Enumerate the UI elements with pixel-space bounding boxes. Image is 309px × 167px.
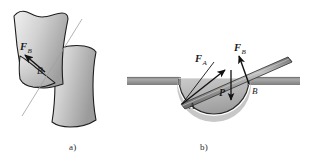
caption-a: a) [69, 142, 76, 152]
panel-a-label-b: B [37, 66, 43, 76]
panel-b: F A F B P A B [127, 42, 300, 122]
panel-a-fb-text: F [19, 41, 27, 52]
panel-b-fa-text: F [194, 53, 202, 64]
panel-b-fb-subscript: B [242, 48, 247, 56]
panel-b-label-fb: F B [233, 42, 247, 56]
panel-b-fa-subscript: A [202, 59, 208, 67]
panel-b-label-fa: F A [194, 53, 208, 67]
panel-b-ground-left [127, 77, 180, 85]
caption-b: b) [200, 142, 208, 152]
panel-a-fb-subscript: B [28, 47, 33, 55]
panel-a: F B B [14, 11, 96, 127]
panel-b-fb-text: F [233, 42, 241, 53]
panel-b-label-b: B [252, 86, 258, 96]
panel-b-label-a: A [188, 101, 195, 111]
panel-b-ground-right [249, 77, 300, 85]
panel-b-label-p: P [219, 87, 226, 98]
physics-diagram: F B B [0, 0, 309, 167]
